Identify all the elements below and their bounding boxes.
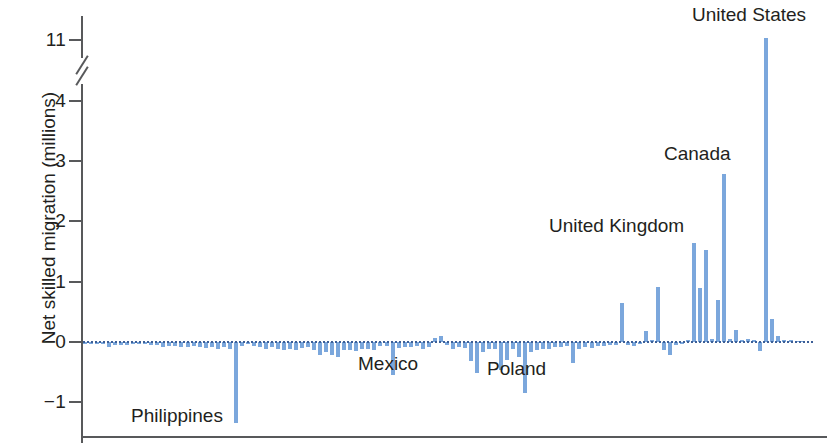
annotation-philippines: Philippines: [131, 405, 223, 427]
bar: [662, 342, 666, 350]
net-skilled-migration-chart: 1143210−1 Net skilled migration (million…: [0, 0, 827, 443]
bar: [366, 342, 370, 349]
y-axis-title: Net skilled migration (millions): [39, 63, 59, 373]
bar: [342, 342, 346, 350]
bar: [234, 342, 238, 423]
y-tick-11: [69, 39, 82, 41]
y-tick-label: 11: [0, 30, 66, 49]
bar: [698, 288, 702, 342]
bar: [511, 342, 515, 349]
bar: [276, 342, 280, 349]
bar: [372, 342, 376, 350]
bar: [722, 174, 726, 342]
bar: [324, 342, 328, 352]
bar: [469, 342, 473, 361]
zero-baseline: [83, 341, 813, 343]
bar: [294, 342, 298, 350]
annotation-poland: Poland: [487, 358, 546, 380]
bar: [577, 342, 581, 349]
bar: [330, 342, 334, 355]
bar: [493, 342, 497, 349]
bar: [348, 342, 352, 350]
bar: [656, 287, 660, 342]
x-axis-line: [81, 436, 827, 438]
y-tick-label-text: −1: [4, 392, 66, 411]
bar: [354, 342, 358, 351]
annotation-united-kingdom: United Kingdom: [549, 215, 684, 237]
y-tick-neg1: [69, 401, 82, 403]
bar: [716, 300, 720, 342]
y-tick-3: [69, 160, 82, 162]
y-tick-2: [69, 220, 82, 222]
bar: [336, 342, 340, 357]
bar: [481, 342, 485, 352]
bar: [770, 319, 774, 342]
y-tick-0: [69, 341, 82, 343]
bar: [475, 342, 479, 373]
annotation-united-states: United States: [692, 4, 806, 26]
bar: [620, 303, 624, 342]
bar: [541, 342, 545, 349]
bar: [312, 342, 316, 350]
y-tick-label-text: 11: [4, 30, 66, 49]
y-tick-1: [69, 281, 82, 283]
bar: [668, 342, 672, 355]
bar: [764, 38, 768, 342]
bar: [692, 243, 696, 342]
plot-area: [83, 16, 827, 437]
y-tick-4: [69, 100, 82, 102]
bar: [517, 342, 521, 357]
bar: [282, 342, 286, 350]
bar: [228, 342, 232, 349]
y-tick-label: −1: [0, 392, 66, 411]
annotation-canada: Canada: [664, 143, 731, 165]
bar: [529, 342, 533, 352]
annotation-mexico: Mexico: [358, 353, 418, 375]
bar: [704, 250, 708, 342]
bar: [758, 342, 762, 351]
bar: [571, 342, 575, 363]
bar: [535, 342, 539, 350]
bar: [318, 342, 322, 355]
bar: [421, 342, 425, 349]
